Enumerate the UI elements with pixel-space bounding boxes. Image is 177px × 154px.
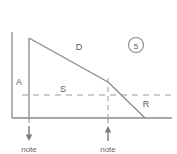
note-off-arrow-head-up-icon bbox=[105, 126, 111, 133]
decay-segment bbox=[29, 38, 108, 82]
note-on-label: note bbox=[21, 145, 37, 154]
badge-number: 5 bbox=[134, 42, 139, 51]
adsr-envelope-diagram: A D S R 5 note note bbox=[0, 0, 177, 154]
sustain-label: S bbox=[60, 84, 66, 94]
release-segment bbox=[108, 82, 145, 118]
note-off-label: note bbox=[100, 145, 116, 154]
note-on-arrow-head-down-icon bbox=[26, 135, 32, 142]
decay-label: D bbox=[76, 42, 83, 52]
release-label: R bbox=[143, 99, 150, 109]
envelope-graph: A D S R 5 note note bbox=[0, 0, 177, 154]
attack-label: A bbox=[16, 77, 22, 87]
